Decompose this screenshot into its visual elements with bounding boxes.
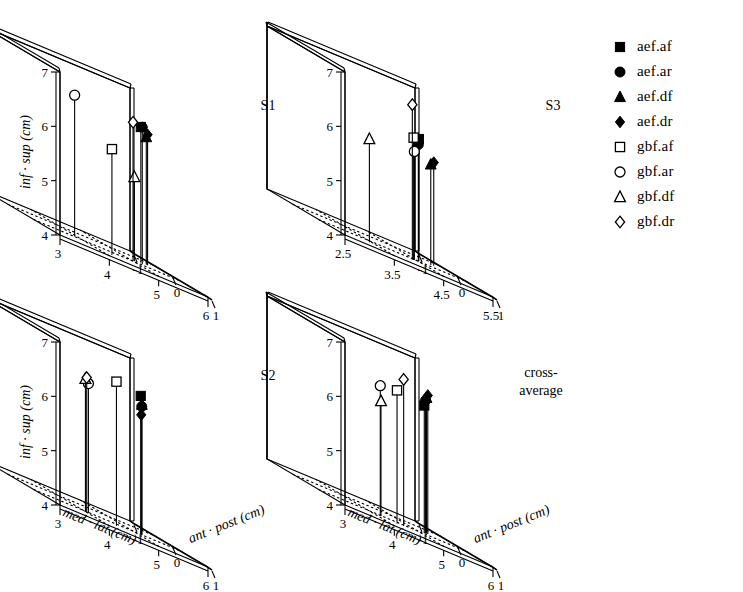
panel-cross-average: 7654345610-1cross-average (266, 292, 563, 592)
open-triangle-icon (364, 133, 375, 144)
open-circle-icon (615, 167, 625, 177)
z-tick-label: 7 (42, 65, 49, 80)
right-corner-rail (130, 358, 134, 521)
z-tick-label: 6 (327, 389, 334, 404)
legend-item-aef-df[interactable]: aef.df (612, 84, 737, 109)
y-tick (497, 301, 500, 308)
z-axis: 7654 (327, 335, 342, 513)
legend-item-label: aef.ar (637, 63, 672, 80)
y-tick-label: 1 (213, 578, 220, 592)
x-tick-label: 6 (488, 578, 495, 592)
x-axis: 3456 (55, 239, 210, 323)
x-tick-label: 5.5 (483, 308, 499, 323)
figure-root: 7654345610-1S176542.53.54.55.510-1S37654… (0, 0, 743, 592)
z-axis-title: inf · sup (cm) (18, 115, 34, 189)
top-back-rail-cap2 (130, 354, 131, 358)
top-back-rail-outer (0, 292, 131, 354)
x-tick-label: 4 (104, 537, 111, 552)
z-axis-rail (341, 72, 345, 235)
x-tick-label: 5 (438, 557, 445, 572)
z-tick-label: 6 (327, 119, 334, 134)
top-left-rail (266, 292, 345, 342)
legend-item-aef-af[interactable]: aef.af (612, 34, 737, 59)
y-tick-label: -1 (133, 262, 144, 277)
filled-diamond-icon (612, 114, 628, 130)
panel-S2: 7654345610-1S2 (0, 292, 275, 592)
filled-square-icon (136, 391, 145, 400)
top-back-rail-outer (268, 22, 416, 84)
y-tick-label: 1 (213, 308, 220, 323)
panel-label: cross- (524, 365, 558, 380)
open-square-icon (612, 139, 628, 155)
top-left-rail-outer (0, 22, 59, 68)
z-tick-label: 4 (42, 228, 49, 243)
legend-item-gbf-af[interactable]: gbf.af (612, 134, 737, 159)
legend-item-label: gbf.df (637, 188, 674, 205)
x-tick-label: 3.5 (384, 267, 400, 282)
legend-item-label: gbf.ar (637, 163, 674, 180)
top-left-rail (266, 22, 345, 72)
legend-item-gbf-df[interactable]: gbf.df (612, 184, 737, 209)
y-tick (497, 571, 500, 578)
top-back-rail-inner (0, 296, 130, 358)
open-square-icon (392, 386, 401, 395)
z-axis-rail (56, 72, 60, 235)
y-tick (212, 571, 215, 578)
filled-diamond-icon (615, 116, 624, 128)
open-circle-icon (70, 90, 80, 100)
data-points (70, 90, 153, 265)
top-left-rail-outer (266, 22, 344, 68)
x-tick-label: 4.5 (434, 287, 450, 302)
legend-item-label: aef.df (637, 88, 673, 105)
z-tick-label: 4 (327, 498, 334, 513)
x-tick-label: 6 (203, 578, 210, 592)
legend-item-aef-dr[interactable]: aef.dr (612, 109, 737, 134)
top-back-rail-cap2 (415, 354, 416, 358)
y-tick-label: 0 (459, 285, 466, 300)
legend-item-label: gbf.dr (637, 213, 674, 230)
top-left-rail-outer (266, 292, 344, 338)
open-square-icon (107, 145, 116, 154)
open-triangle-icon (376, 395, 387, 406)
grid-line-x (366, 230, 444, 276)
x-tick-label: 4 (104, 267, 111, 282)
y-axis-title: ant · post (cm) (186, 502, 267, 547)
z-tick-label: 5 (42, 444, 49, 459)
open-diamond-icon (612, 214, 628, 230)
floor-grid (8, 204, 182, 281)
filled-triangle-icon (612, 89, 628, 105)
left-wall (267, 296, 345, 505)
top-left-rail (0, 292, 60, 342)
x-tick-label: 3 (340, 516, 347, 531)
z-axis-title: inf · sup (cm) (18, 385, 34, 459)
left-wall (267, 26, 345, 235)
top-back-rail-outer (268, 292, 416, 354)
floor-grid (8, 474, 182, 551)
open-square-icon (112, 377, 121, 386)
z-axis-rail (341, 342, 345, 505)
filled-circle-icon (615, 67, 625, 77)
x-tick-label: 2.5 (335, 246, 351, 261)
top-back-rail-cap2 (415, 84, 416, 88)
z-tick-label: 7 (42, 335, 49, 350)
open-diamond-icon (399, 374, 408, 386)
open-triangle-icon (615, 191, 626, 202)
panel-label: S3 (546, 98, 561, 113)
legend-item-aef-ar[interactable]: aef.ar (612, 59, 737, 84)
open-triangle-icon (129, 171, 140, 182)
legend-item-label: aef.dr (637, 113, 673, 130)
z-tick-label: 4 (42, 498, 49, 513)
open-square-icon (409, 133, 418, 142)
legend-item-gbf-ar[interactable]: gbf.ar (612, 159, 737, 184)
top-back-rail-cap2 (130, 84, 131, 88)
z-axis: 7654 (42, 335, 57, 513)
y-axis-title: ant · post (cm) (471, 502, 552, 547)
top-back-rail (0, 292, 131, 358)
data-points (80, 372, 147, 535)
panel-S1: 7654345610-1S1 (0, 22, 275, 323)
filled-square-icon (615, 42, 624, 51)
legend-item-gbf-dr[interactable]: gbf.dr (612, 209, 737, 234)
floor-grid (293, 204, 467, 281)
legend-item-label: gbf.af (637, 138, 674, 155)
filled-circle-icon (612, 64, 628, 80)
